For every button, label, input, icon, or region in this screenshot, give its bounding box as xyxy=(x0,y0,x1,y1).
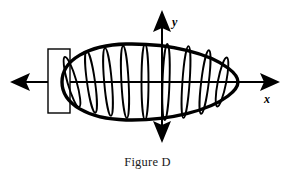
figure-canvas: y x xyxy=(0,0,295,180)
y-axis-label: y xyxy=(170,15,178,29)
figure-caption: Figure D xyxy=(0,155,295,169)
x-axis-label: x xyxy=(263,92,270,106)
figure-d-diagram: y x Figure D xyxy=(0,0,295,180)
